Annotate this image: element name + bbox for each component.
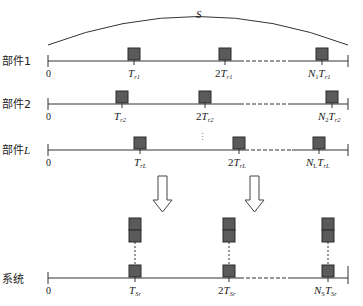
down-arrow-icon: [153, 176, 172, 212]
maintenance-box: [116, 91, 128, 103]
system-maintenance-box: [129, 265, 141, 277]
maintenance-box: [233, 137, 245, 149]
stacked-box-bottom: [129, 230, 141, 242]
tick-label-n: NSTSr: [313, 284, 337, 297]
maintenance-box: [134, 137, 146, 149]
origin-label: 0: [46, 285, 51, 296]
arc-label: S: [196, 8, 202, 20]
stacked-box-top: [129, 218, 141, 230]
maintenance-box: [313, 137, 325, 149]
maintenance-box: [199, 91, 211, 103]
horizon-arc: [48, 17, 348, 46]
down-arrow-icon: [245, 176, 264, 212]
origin-label: 0: [46, 111, 51, 122]
tick-label-2: 2TrL: [228, 156, 246, 169]
maintenance-box: [219, 48, 231, 60]
tick-label-1: TSr: [129, 284, 141, 297]
tick-label-2: 2Tr2: [196, 110, 214, 123]
maintenance-box: [128, 48, 140, 60]
tick-label-1: Tr1: [128, 67, 140, 80]
component-1-label: 部件1: [2, 54, 31, 68]
system-maintenance-box: [322, 265, 334, 277]
tick-label-2: 2TSr: [218, 284, 236, 297]
maintenance-box: [326, 91, 338, 103]
origin-label: 0: [46, 157, 51, 168]
component-2-label: 部件2: [2, 97, 31, 111]
tick-label-1: Tr2: [114, 110, 127, 123]
component-2-timeline: 部件2 0 Tr2 2Tr2 N2Tr2: [2, 91, 348, 123]
maintenance-box: [316, 48, 328, 60]
origin-label: 0: [46, 68, 51, 79]
stacked-box-bottom: [223, 230, 235, 242]
system-label: 系统: [2, 273, 24, 286]
tick-label-n: NLTrL: [305, 156, 330, 169]
tick-label-n: N2Tr2: [317, 110, 341, 123]
stacked-box-bottom: [322, 230, 334, 242]
system-maintenance-box: [223, 265, 235, 277]
component-1-timeline: 部件1 0 Tr1 2Tr1 N1Tr1: [2, 48, 348, 80]
tick-label-n: N1Tr1: [307, 67, 331, 80]
tick-label-1: TrL: [134, 156, 147, 169]
component-L-timeline: 部件L 0 TrL 2TrL NLTrL: [2, 137, 348, 169]
maintenance-timeline-diagram: S 部件1 0 Tr1 2Tr1 N1Tr1 部件2 0 Tr2 2Tr2: [0, 0, 363, 306]
vertical-ellipsis: ⋮: [198, 132, 207, 142]
tick-label-2: 2Tr1: [215, 67, 232, 80]
component-L-label: 部件L: [2, 143, 30, 157]
system-timeline: 系统 0 TSr 2TSr NSTSr: [2, 218, 348, 297]
stacked-box-top: [223, 218, 235, 230]
stacked-box-top: [322, 218, 334, 230]
